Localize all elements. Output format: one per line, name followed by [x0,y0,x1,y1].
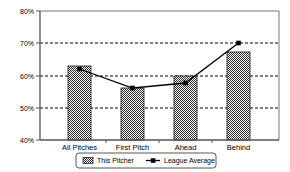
legend-swatch-bar [83,158,93,164]
legend-marker-line [151,158,156,163]
marker-all-pitches [77,67,82,72]
chart-legend: This Pitcher League Average [76,153,216,168]
y-tick-label-60: 60% [20,73,34,80]
y-tick-label-70: 70% [20,40,34,47]
legend-label-this-pitcher: This Pitcher [97,157,135,164]
x-category-label-ahead: Ahead [175,143,197,152]
bar-line-chart: 80% 70% 60% 50% 40% All Pitches First Pi… [0,0,290,172]
marker-behind [236,41,241,46]
x-category-label-first-pitch: First Pitch [116,143,149,152]
y-tick-label-40: 40% [20,137,34,144]
bar-all-pitches [68,66,91,140]
x-category-label-behind: Behind [227,143,250,152]
marker-first-pitch [130,86,135,91]
marker-ahead [183,81,188,86]
chart-container: 80% 70% 60% 50% 40% All Pitches First Pi… [0,0,290,172]
y-tick-label-50: 50% [20,105,34,112]
x-category-label-all-pitches: All Pitches [62,143,97,152]
bar-behind [227,52,250,140]
legend-label-league-average: League Average [164,157,215,165]
y-tick-label-80: 80% [20,8,34,15]
bar-ahead [174,76,197,140]
bar-first-pitch [121,88,144,140]
